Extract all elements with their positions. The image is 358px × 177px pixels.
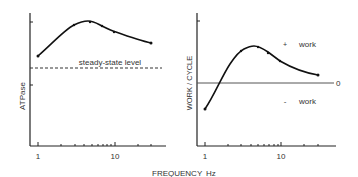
steady-state-label: steady-state level [79, 58, 141, 67]
left-x-tick-label-10: 10 [111, 152, 120, 161]
x-axis-unit: Hz [206, 169, 216, 177]
right-y-axis-label: WORK / CYCLE [185, 56, 194, 111]
left-y-axis-label: ATPase [18, 82, 27, 110]
left-x-tick-label-1: 1 [36, 152, 41, 161]
positive-work-label: work [298, 40, 317, 49]
work-per-cycle-chart: 1 10 WORK / CYCLE 0 + work - work [185, 13, 341, 161]
negative-work-label: work [298, 97, 317, 106]
right-x-tick-label-10: 10 [277, 152, 286, 161]
right-x-tick-label-1: 1 [203, 152, 208, 161]
figure: 1 10 ATPase steady-state level [0, 0, 358, 177]
zero-label: 0 [336, 79, 341, 88]
positive-work-sign: + [283, 41, 287, 48]
x-axis-label: FREQUENCY [152, 169, 203, 177]
atpase-curve [38, 21, 151, 56]
atpase-chart: 1 10 ATPase steady-state level [18, 13, 166, 161]
negative-work-sign: - [284, 97, 287, 106]
